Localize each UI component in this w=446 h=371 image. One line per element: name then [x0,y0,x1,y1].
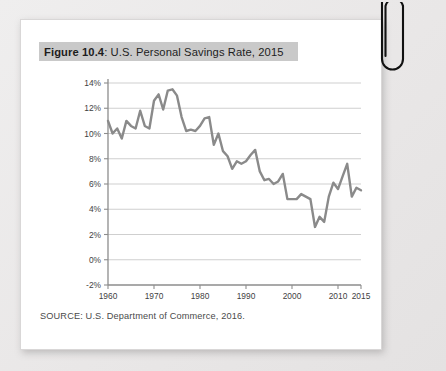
x-tick-label: 1970 [145,291,164,301]
y-tick-label: -2% [86,280,101,290]
y-tick-label: 12% [84,103,101,113]
y-tick-label: 0% [89,255,102,265]
chart-y-tick-labels: -2%0%2%4%6%8%10%12%14% [84,78,101,290]
figure-card: Figure 10.4: U.S. Personal Savings Rate,… [20,19,382,350]
x-tick-label: 1980 [191,291,210,301]
x-tick-label: 2000 [283,291,302,301]
y-tick-label: 2% [89,230,102,240]
chart-gridlines [108,83,361,260]
y-tick-label: 6% [89,179,102,189]
chart-x-tick-labels: 1960197019801990200020102015 [99,291,371,301]
figure-source-note: SOURCE: U.S. Department of Commerce, 201… [40,311,245,321]
y-tick-label: 4% [89,204,102,214]
x-tick-label: 1960 [99,291,118,301]
x-tick-label: 2015 [352,291,371,301]
x-tick-label: 1990 [237,291,256,301]
chart-series-line [108,89,361,227]
chart-plot-area: -2%0%2%4%6%8%10%12%14% 19601970198019902… [21,20,383,351]
y-tick-label: 8% [89,154,102,164]
y-tick-label: 10% [84,129,101,139]
x-tick-label: 2010 [329,291,348,301]
y-tick-label: 14% [84,78,101,88]
savings-rate-line-chart: -2%0%2%4%6%8%10%12%14% 19601970198019902… [21,20,383,351]
